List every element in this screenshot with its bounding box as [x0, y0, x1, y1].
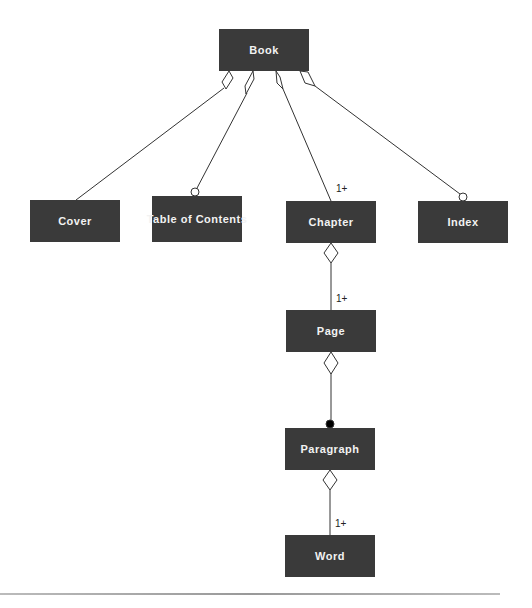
edge-book-chapter	[283, 89, 331, 201]
class-chapter[interactable]: Chapter	[286, 201, 376, 243]
multiplicity-label-word: 1+	[335, 518, 346, 529]
aggregation-diamond-icon	[245, 71, 254, 94]
edge-book-toc	[196, 93, 247, 190]
aggregation-diamond-icon	[324, 352, 338, 374]
class-label: Chapter	[308, 216, 353, 228]
class-label: Word	[315, 550, 345, 562]
multiplicity-label-chapter: 1+	[336, 183, 347, 194]
bottom-divider	[0, 593, 500, 595]
class-paragraph[interactable]: Paragraph	[285, 428, 375, 470]
class-book[interactable]: Book	[219, 29, 309, 71]
optional-circle-icon	[459, 193, 467, 201]
filled-circle-icon	[326, 420, 334, 428]
class-label: Page	[317, 325, 345, 337]
aggregation-diamond-icon	[222, 71, 233, 89]
edge-book-cover	[76, 88, 224, 200]
class-label: Table of Contents	[147, 213, 248, 225]
class-page[interactable]: Page	[286, 310, 376, 352]
aggregation-diamond-icon	[324, 243, 338, 263]
class-cover[interactable]: Cover	[30, 200, 120, 242]
class-word[interactable]: Word	[285, 535, 375, 577]
edge-book-index	[315, 86, 460, 194]
optional-circle-icon	[191, 188, 199, 196]
class-label: Paragraph	[301, 443, 360, 455]
class-label: Book	[249, 44, 279, 56]
class-label: Index	[447, 216, 478, 228]
multiplicity-label-page: 1+	[336, 293, 347, 304]
class-label: Cover	[58, 215, 92, 227]
class-index[interactable]: Index	[418, 201, 508, 243]
aggregation-diamond-icon	[276, 71, 283, 89]
aggregation-diamond-icon	[300, 71, 315, 86]
class-table-of-contents[interactable]: Table of Contents	[152, 196, 242, 242]
diagram-edges	[0, 0, 532, 608]
aggregation-diamond-icon	[323, 470, 337, 490]
